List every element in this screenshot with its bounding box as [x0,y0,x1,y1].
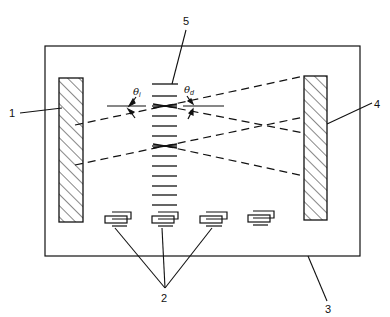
theta-d-label: θd [184,84,195,96]
callout-4: 4 [374,98,380,110]
theta-i-label: θi [133,86,141,98]
transducer-4 [248,211,274,225]
callout-2: 2 [161,292,167,304]
diagram-canvas: θi θd [0,0,390,317]
callout-1: 1 [9,107,15,119]
transducer-2 [152,212,178,226]
callout-5: 5 [183,15,189,27]
callout-3: 3 [325,303,331,315]
theta-d-arrows [187,96,193,119]
theta-i-arrows [128,97,136,118]
left-reflector [59,78,83,222]
transducer-1 [105,212,131,226]
right-reflector [304,76,327,220]
transducers [105,211,274,226]
transducer-3 [200,212,227,226]
